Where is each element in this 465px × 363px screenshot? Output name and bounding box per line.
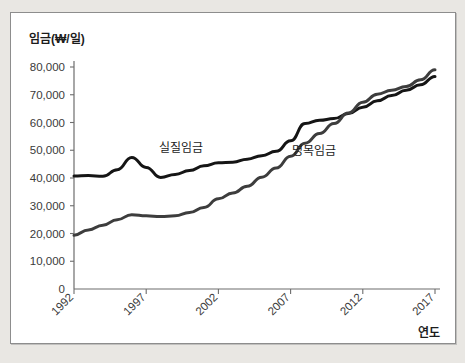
y-tick-label: 30,000 (30, 200, 65, 212)
figure-container: 80,00070,00060,00050,00040,00030,00020,0… (0, 0, 465, 363)
series-line-1 (74, 76, 435, 177)
y-tick-label: 50,000 (30, 144, 65, 156)
y-axis-title: 임금(₩/일) (29, 32, 85, 46)
y-tick-label: 70,000 (30, 89, 65, 101)
chart-panel: 80,00070,00060,00050,00040,00030,00020,0… (10, 12, 456, 344)
y-tick-label: 10,000 (30, 255, 65, 267)
y-tick-label: 60,000 (30, 117, 65, 129)
x-tick-label: 2007 (265, 291, 292, 318)
x-tick-label: 2002 (193, 291, 220, 318)
y-tick-label: 80,000 (30, 61, 65, 73)
x-tick-label: 2012 (338, 291, 365, 318)
x-tick-label: 1992 (49, 291, 76, 318)
y-tick-label: 40,000 (30, 172, 65, 184)
series-annotation-1: 실질임금 (159, 141, 203, 155)
x-axis-title: 연도 (418, 325, 440, 340)
series-line-2 (74, 70, 435, 235)
series-annotation-2: 명목임금 (292, 144, 336, 158)
y-tick-label: 20,000 (30, 228, 65, 240)
x-tick-label: 2017 (410, 291, 437, 318)
line-chart: 80,00070,00060,00050,00040,00030,00020,0… (11, 13, 455, 343)
x-tick-label: 1997 (121, 291, 148, 318)
